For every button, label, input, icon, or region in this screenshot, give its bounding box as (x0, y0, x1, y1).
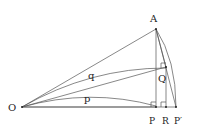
geometry-diagram: A O P R P′ Q q p (0, 0, 199, 133)
label-p: p (84, 93, 90, 104)
label-P-prime: P′ (174, 116, 182, 126)
point-O (21, 106, 23, 108)
label-R: R (162, 116, 169, 126)
point-A (155, 28, 157, 30)
point-P (155, 106, 157, 108)
point-P-prime (175, 106, 177, 108)
label-P: P (149, 116, 155, 126)
label-q: q (88, 70, 95, 81)
label-O: O (8, 102, 16, 113)
point-Q (165, 66, 167, 68)
right-angle-R (161, 102, 166, 107)
label-A: A (149, 13, 158, 24)
right-angle-P (151, 102, 156, 107)
point-R (165, 106, 167, 108)
line-AQ (156, 29, 166, 67)
label-Q: Q (158, 73, 166, 84)
